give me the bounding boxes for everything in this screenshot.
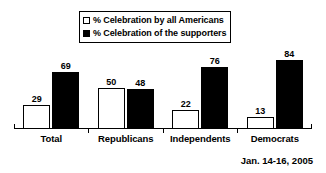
bar-independents-supporters: 76 (201, 40, 228, 128)
bar-value-label: 48 (135, 78, 145, 88)
bar-rect (201, 67, 228, 128)
bar-democrats-supporters: 84 (276, 40, 303, 128)
x-axis-left-cap (14, 124, 15, 128)
hollow-square-icon (83, 17, 90, 24)
x-axis-label-democrats: Democrats (238, 133, 313, 145)
x-axis-label-total: Total (14, 133, 89, 145)
bar-rect (276, 60, 303, 128)
bar-value-label: 69 (61, 61, 71, 71)
bar-value-label: 13 (255, 106, 265, 116)
bar-republicans-supporters: 48 (127, 40, 154, 128)
bar-rect (172, 110, 199, 128)
bar-group-independents: 22 76 (163, 40, 238, 128)
bar-rect (98, 88, 125, 128)
x-axis-labels: Total Republicans Independents Democrats (14, 133, 312, 145)
x-axis-label-republicans: Republicans (89, 133, 164, 145)
bar-group-republicans: 50 48 (89, 40, 164, 128)
bar-value-label: 29 (32, 94, 42, 104)
x-axis-right-cap (311, 124, 312, 128)
bar-democrats-all-americans: 13 (247, 40, 274, 128)
bar-value-label: 76 (210, 56, 220, 66)
bar-rect (247, 117, 274, 128)
bar-group-total: 29 69 (14, 40, 89, 128)
legend-item-label: % Celebration by all Americans (93, 15, 224, 26)
bar-rect (127, 89, 154, 128)
bar-value-label: 84 (284, 49, 294, 59)
bar-total-supporters: 69 (52, 40, 79, 128)
filled-square-icon (83, 30, 90, 37)
x-axis-label-independents: Independents (163, 133, 238, 145)
survey-date-note: Jan. 14-16, 2005 (241, 155, 313, 166)
bar-value-label: 50 (106, 77, 116, 87)
legend-item-supporters: % Celebration of the supporters (83, 27, 226, 40)
bar-independents-all-americans: 22 (172, 40, 199, 128)
legend-item-label: % Celebration of the supporters (93, 28, 226, 39)
bar-rect (23, 105, 50, 128)
bar-value-label: 22 (181, 99, 191, 109)
bar-chart: % Celebration by all Americans % Celebra… (0, 0, 326, 173)
bar-total-all-americans: 29 (23, 40, 50, 128)
plot-area: 29 69 50 48 (14, 40, 312, 128)
bar-group-democrats: 13 84 (238, 40, 313, 128)
bar-republicans-all-americans: 50 (98, 40, 125, 128)
bar-rect (52, 72, 79, 128)
legend-item-all-americans: % Celebration by all Americans (83, 14, 226, 27)
chart-legend: % Celebration by all Americans % Celebra… (79, 11, 231, 43)
